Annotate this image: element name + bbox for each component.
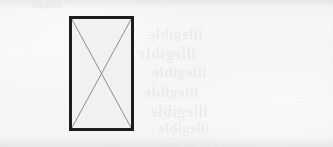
paper-texture — [0, 0, 333, 147]
crossed-rectangle-figure — [69, 16, 134, 131]
crossed-rectangle-svg — [69, 16, 134, 131]
scanned-page: illegible illegible illegible illegible … — [0, 0, 333, 147]
